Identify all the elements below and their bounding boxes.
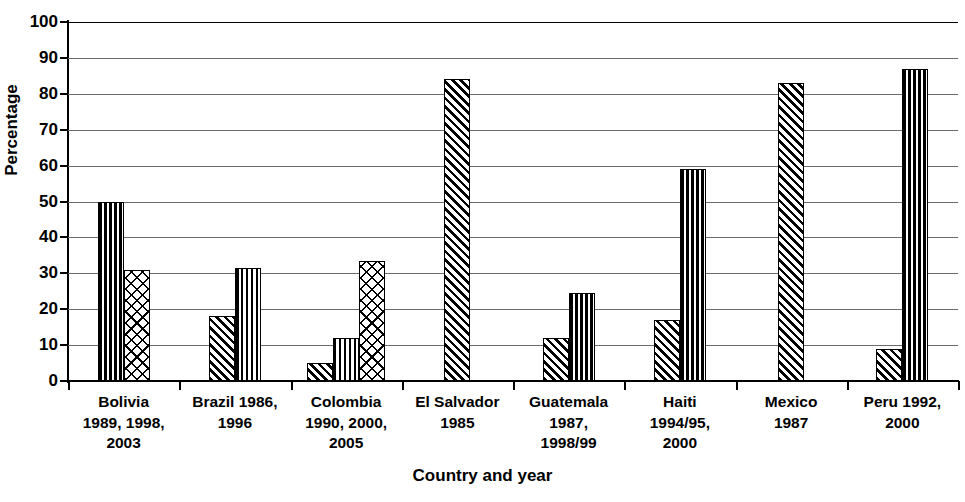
x-axis-category-label: Bolivia 1989, 1998, 2003 [68,392,179,454]
x-axis-title: Country and year [0,466,965,486]
x-axis-tick [847,381,849,390]
x-axis-tick [624,381,626,390]
x-axis-category-label: Brazil 1986, 1996 [179,392,290,433]
bar [876,349,902,381]
y-axis-tick-labels: 1009080706050403020100 [12,0,58,502]
x-axis-category-label: Peru 1992, 2000 [847,392,958,433]
x-axis-tick [179,381,181,390]
bar-chart: Percentage 1009080706050403020100 Bolivi… [0,0,965,502]
bar [124,270,150,381]
y-axis-tick-label: 50 [16,193,58,210]
x-axis-category-label: Guatemala 1987, 1998/99 [513,392,624,454]
x-axis-tick [513,381,515,390]
bar [569,293,595,381]
bar [98,202,124,382]
gridline [68,273,958,274]
gridline [68,345,958,346]
gridline [68,166,958,167]
bar [307,363,333,381]
y-axis-tick-label: 30 [16,264,58,281]
gridline [68,58,958,59]
x-axis-category-label: Haiti 1994/95, 2000 [624,392,735,454]
gridline [68,309,958,310]
bar [235,268,261,381]
x-axis-tick [736,381,738,390]
bar [333,338,359,381]
gridline [68,202,958,203]
gridline [68,130,958,131]
x-axis-category-label: Mexico 1987 [736,392,847,433]
y-axis-tick-label: 40 [16,228,58,245]
x-axis-tick [402,381,404,390]
x-axis-category-label: El Salvador 1985 [402,392,513,433]
y-axis-tick-label: 0 [16,372,58,389]
y-axis-tick-label: 100 [16,13,58,30]
bar [778,83,804,381]
bar [209,316,235,381]
plot-area [68,22,958,381]
y-axis-tick-label: 90 [16,49,58,66]
gridline [68,94,958,95]
bar [359,261,385,381]
x-axis-tick [958,381,960,390]
gridline [68,22,958,23]
x-axis-tick [291,381,293,390]
y-axis-tick-label: 10 [16,336,58,353]
x-axis-tick [68,381,70,390]
y-axis-tick-label: 70 [16,121,58,138]
bar [680,169,706,381]
x-axis-category-label: Colombia 1990, 2000, 2005 [291,392,402,454]
gridline [68,237,958,238]
y-axis-tick-label: 20 [16,300,58,317]
bar [654,320,680,381]
bar [902,69,928,381]
y-axis-tick-label: 60 [16,157,58,174]
bar [444,79,470,381]
y-axis-tick-label: 80 [16,85,58,102]
bar [543,338,569,381]
